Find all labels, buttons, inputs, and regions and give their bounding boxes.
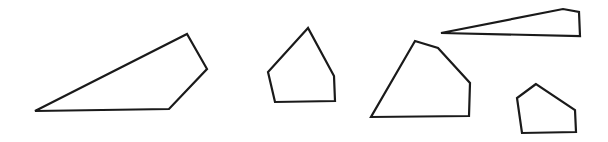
pentagon-small-shape [517, 84, 576, 133]
thin-quadrilateral-top-shape [441, 9, 580, 36]
pentagon-large-shape [371, 41, 470, 117]
pentagon-middle-shape [268, 28, 335, 102]
shapes-canvas [0, 0, 608, 142]
quadrilateral-left-shape [35, 34, 207, 111]
